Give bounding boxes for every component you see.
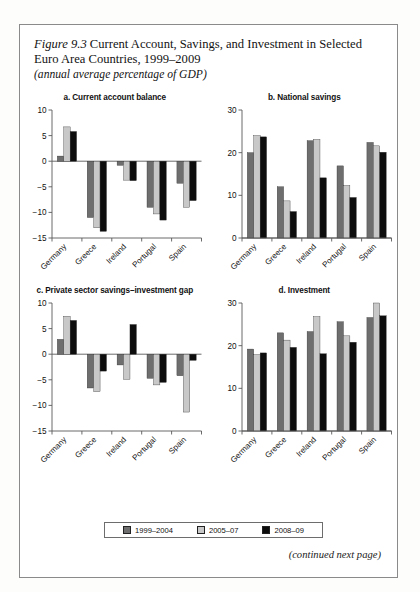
svg-text:0: 0	[42, 157, 47, 166]
legend-item-2008-09: 2008–09	[262, 526, 304, 535]
svg-text:30: 30	[227, 106, 237, 115]
legend-item-1999-2004: 1999–2004	[123, 526, 173, 535]
figure-caption: Figure 9.3 Current Account, Savings, and…	[34, 37, 384, 83]
panel-a-plot: 1050−5−10−15GermanyGreeceIrelandPortugal…	[20, 104, 210, 286]
svg-text:Spain: Spain	[167, 435, 188, 456]
svg-text:Spain: Spain	[167, 242, 188, 263]
legend-item-2005-07: 2005–07	[197, 526, 239, 535]
svg-text:Greece: Greece	[263, 242, 288, 267]
panel-c-plot: 1050−5−10−15GermanyGreeceIrelandPortugal…	[20, 297, 210, 479]
svg-text:−10: −10	[33, 208, 47, 217]
svg-text:Ireland: Ireland	[104, 242, 128, 266]
svg-text:−5: −5	[37, 376, 47, 385]
svg-text:0: 0	[231, 234, 236, 243]
svg-text:Germany: Germany	[228, 435, 258, 465]
svg-text:Spain: Spain	[357, 435, 378, 456]
legend-label-2008-09: 2008–09	[274, 526, 304, 535]
svg-text:5: 5	[42, 325, 47, 334]
svg-text:10: 10	[37, 106, 47, 115]
svg-text:20: 20	[227, 149, 237, 158]
svg-text:Germany: Germany	[39, 242, 69, 272]
panel-b-plot: 3020100GermanyGreeceIrelandPortugalSpain	[210, 104, 400, 286]
figure-number: Figure 9.3	[34, 37, 87, 51]
svg-text:Ireland: Ireland	[104, 435, 128, 459]
figure-page: Figure 9.3 Current Account, Savings, and…	[0, 0, 420, 592]
panel-a: a. Current account balance 1050−5−10−15G…	[20, 93, 210, 286]
legend-label-2005-07: 2005–07	[209, 526, 239, 535]
svg-text:10: 10	[227, 191, 237, 200]
svg-text:Germany: Germany	[39, 435, 69, 465]
panel-a-title: a. Current account balance	[20, 93, 210, 102]
svg-text:Portugal: Portugal	[320, 242, 348, 270]
svg-text:0: 0	[231, 427, 236, 436]
legend-swatch-2005-07	[197, 526, 205, 534]
svg-text:Ireland: Ireland	[294, 435, 318, 459]
legend-swatch-2008-09	[262, 526, 270, 534]
svg-text:Portugal: Portugal	[131, 435, 159, 463]
svg-text:10: 10	[227, 384, 237, 393]
svg-text:Greece: Greece	[73, 435, 98, 460]
figure-frame: Figure 9.3 Current Account, Savings, and…	[19, 24, 398, 578]
panel-d-title: d. Investment	[210, 286, 400, 295]
panel-grid: a. Current account balance 1050−5−10−15G…	[20, 93, 399, 479]
panel-d: d. Investment 3020100GermanyGreeceIrelan…	[210, 286, 400, 479]
svg-text:Portugal: Portugal	[131, 242, 159, 270]
continued-note: (continued next page)	[289, 549, 381, 560]
figure-subtitle: (annual average percentage of GDP)	[34, 67, 384, 82]
panel-d-plot: 3020100GermanyGreeceIrelandPortugalSpain	[210, 297, 400, 479]
svg-text:−10: −10	[33, 401, 47, 410]
svg-text:Greece: Greece	[263, 435, 288, 460]
panel-c: c. Private sector savings–investment gap…	[20, 286, 210, 479]
svg-text:−15: −15	[33, 234, 47, 243]
panel-row-bottom: c. Private sector savings–investment gap…	[20, 286, 399, 479]
svg-text:30: 30	[227, 299, 237, 308]
svg-text:Greece: Greece	[73, 242, 98, 267]
svg-text:−15: −15	[33, 427, 47, 436]
panel-b: b. National savings 3020100GermanyGreece…	[210, 93, 400, 286]
legend-swatch-1999-2004	[123, 526, 131, 534]
svg-text:Portugal: Portugal	[320, 435, 348, 463]
legend-label-1999-2004: 1999–2004	[135, 526, 173, 535]
chart-legend: 1999–2004 2005–07 2008–09	[104, 522, 323, 538]
svg-text:−5: −5	[37, 183, 47, 192]
panel-b-title: b. National savings	[210, 93, 400, 102]
svg-text:Ireland: Ireland	[294, 242, 318, 266]
svg-text:Spain: Spain	[357, 242, 378, 263]
svg-text:20: 20	[227, 342, 237, 351]
panel-row-top: a. Current account balance 1050−5−10−15G…	[20, 93, 399, 286]
panel-c-title: c. Private sector savings–investment gap	[20, 286, 210, 295]
svg-text:Germany: Germany	[228, 242, 258, 272]
svg-text:10: 10	[37, 299, 47, 308]
svg-text:5: 5	[42, 132, 47, 141]
svg-text:0: 0	[42, 350, 47, 359]
